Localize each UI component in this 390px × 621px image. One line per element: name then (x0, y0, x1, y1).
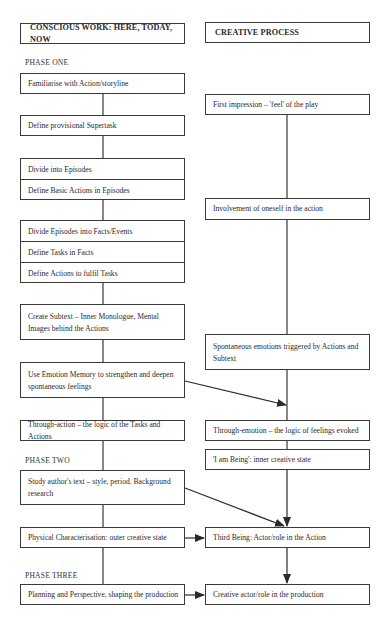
physical-box: Physical Characterisation: outer creativ… (20, 527, 185, 548)
familiarise-text: Familiarise with Action/storyline (28, 78, 128, 90)
through-emotion-box: Through-emotion – the logic of feelings … (205, 420, 370, 441)
through-action-text: Through-action – the logic of the Tasks … (28, 419, 184, 443)
first-impression-text: First impression – 'feel' of the play (213, 99, 318, 111)
involvement-text: Involvement of oneself in the action (213, 203, 323, 215)
supertask-box: Define provisional Supertask (20, 115, 185, 136)
episodes-group: Divide into Episodes Define Basic Action… (20, 158, 185, 200)
facts-item: Define Actions to fulfil Tasks (21, 263, 184, 284)
through-action-box: Through-action – the logic of the Tasks … (20, 420, 185, 441)
spontaneous-box: Spontaneous emotions triggered by Action… (205, 334, 370, 370)
phase-three-label: PHASE THREE (25, 571, 77, 580)
left-column-header: CONSCIOUS WORK: HERE, TODAY, NOW (20, 23, 185, 44)
left-column-header-label: CONSCIOUS WORK: HERE, TODAY, NOW (30, 22, 184, 46)
first-impression-box: First impression – 'feel' of the play (205, 94, 370, 115)
right-column-header-label: CREATIVE PROCESS (215, 27, 299, 39)
emotion-memory-box: Use Emotion Memory to strengthen and dee… (20, 362, 185, 398)
i-am-being-text: 'I am Being': inner creative state (213, 454, 311, 466)
subtext-box: Create Subtext – Inner Monologue, Mental… (20, 304, 185, 340)
supertask-text: Define provisional Supertask (28, 120, 117, 132)
study-box: Study author's text – style, period. Bac… (20, 470, 185, 505)
i-am-being-box: 'I am Being': inner creative state (205, 449, 370, 470)
episodes-item: Divide into Episodes (21, 159, 184, 180)
phase-two-label: PHASE TWO (25, 456, 70, 465)
right-column-header: CREATIVE PROCESS (205, 22, 370, 43)
facts-group: Divide Episodes into Facts/Events Define… (20, 220, 185, 283)
third-being-text: Third Being: Actor/role in the Action (213, 532, 326, 544)
third-being-box: Third Being: Actor/role in the Action (205, 527, 370, 548)
spontaneous-text: Spontaneous emotions triggered by Action… (213, 341, 363, 365)
planning-text: Planning and Perspective, shaping the pr… (28, 589, 178, 601)
study-text: Study author's text – style, period. Bac… (28, 476, 178, 500)
emotion-memory-text: Use Emotion Memory to strengthen and dee… (28, 369, 178, 393)
physical-text: Physical Characterisation: outer creativ… (28, 532, 167, 544)
phase-one-label: PHASE ONE (25, 58, 68, 67)
creative-actor-box: Creative actor/role in the production (205, 584, 370, 605)
episodes-item: Define Basic Actions in Episodes (21, 180, 184, 201)
facts-item: Define Tasks in Facts (21, 242, 184, 263)
familiarise-box: Familiarise with Action/storyline (20, 73, 185, 94)
creative-actor-text: Creative actor/role in the production (213, 589, 324, 601)
facts-item: Divide Episodes into Facts/Events (21, 221, 184, 242)
subtext-text: Create Subtext – Inner Monologue, Mental… (28, 311, 178, 335)
through-emotion-text: Through-emotion – the logic of feelings … (213, 425, 359, 437)
planning-box: Planning and Perspective, shaping the pr… (20, 584, 185, 605)
involvement-box: Involvement of oneself in the action (205, 198, 370, 220)
